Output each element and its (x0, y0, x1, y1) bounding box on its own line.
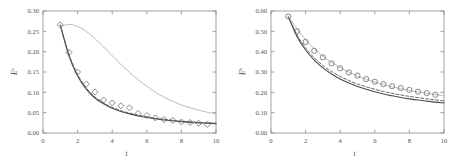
x-tick-label: 8 (180, 137, 184, 144)
series-dashed-curve (288, 16, 444, 101)
y-tick-label: 0.00 (255, 129, 267, 136)
panel-right: 0.000.100.200.300.400.500.600246810 Eb t (228, 0, 456, 163)
y-axis-label-superscript: b (237, 68, 242, 71)
y-axis-label-text: Eb (238, 68, 247, 75)
series-solid-dark-curve (288, 17, 444, 103)
y-tick-label: 0.05 (27, 109, 39, 116)
y-axis-label-superscript: u (9, 68, 14, 71)
plot-canvas-left: 0.000.050.100.150.200.250.300246810 (0, 0, 228, 163)
data-marker-diamond (92, 89, 98, 95)
y-tick-label: 0.25 (27, 28, 39, 35)
y-tick-label: 0.50 (255, 28, 267, 35)
y-tick-label: 0.20 (27, 48, 39, 55)
x-tick-label: 0 (41, 137, 45, 144)
x-tick-label: 4 (339, 137, 343, 144)
y-tick-label: 0.10 (27, 89, 39, 96)
data-marker-diamond (118, 103, 124, 109)
series-light-gray-curve (288, 16, 444, 95)
x-axis-label-right: t (354, 150, 356, 158)
x-tick-label: 0 (269, 137, 273, 144)
x-tick-label: 2 (304, 137, 307, 144)
y-tick-label: 0.40 (255, 48, 267, 55)
y-axis-label-left: Eu (9, 68, 18, 75)
x-axis-label-left: t (126, 150, 128, 158)
x-tick-label: 6 (373, 137, 377, 144)
y-tick-label: 0.15 (27, 68, 39, 75)
x-tick-label: 2 (76, 137, 79, 144)
x-tick-label: 4 (111, 137, 115, 144)
y-tick-label: 0.00 (27, 129, 39, 136)
y-tick-label: 0.30 (27, 7, 39, 14)
plot-canvas-right: 0.000.100.200.300.400.500.600246810 (228, 0, 456, 163)
x-tick-label: 10 (213, 137, 220, 144)
data-marker-diamond (127, 105, 133, 111)
y-tick-label: 0.30 (255, 68, 267, 75)
y-axis-label-right: Eb (237, 68, 246, 75)
y-axis-label-text: Eu (10, 68, 19, 75)
panel-left: 0.000.050.100.150.200.250.300246810 Eu t (0, 0, 228, 163)
y-tick-label: 0.10 (255, 109, 267, 116)
y-tick-label: 0.20 (255, 89, 267, 96)
x-tick-label: 10 (441, 137, 448, 144)
data-marker-diamond (109, 100, 115, 106)
figure-two-panel-plot: 0.000.050.100.150.200.250.300246810 Eu t… (0, 0, 456, 163)
x-tick-label: 8 (408, 137, 412, 144)
x-tick-label: 6 (145, 137, 149, 144)
series-light-gray-curve (60, 24, 216, 113)
y-tick-label: 0.60 (255, 7, 267, 14)
